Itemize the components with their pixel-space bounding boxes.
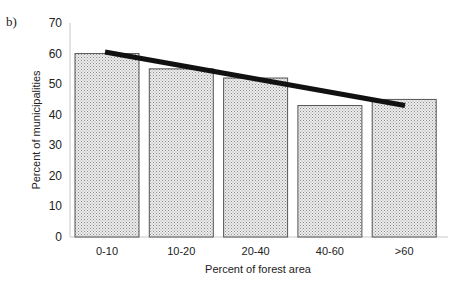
- y-tick-label: 70: [49, 16, 63, 30]
- bar-60: [372, 99, 436, 237]
- bar-20-40: [224, 78, 288, 237]
- y-tick-label: 10: [49, 199, 63, 213]
- x-tick-label: >60: [395, 245, 414, 257]
- x-tick-label: 40-60: [316, 245, 344, 257]
- y-tick-label: 40: [49, 108, 63, 122]
- y-axis-title: Percent of municipalities: [30, 70, 42, 190]
- bar-chart: 010203040506070 0-1010-2020-4040-60>60 P…: [0, 0, 454, 286]
- bar-0-10: [75, 54, 139, 237]
- x-axis-title: Percent of forest area: [205, 263, 312, 275]
- bar-40-60: [298, 106, 362, 237]
- bar-10-20: [149, 69, 213, 237]
- y-axis-ticks: 010203040506070: [49, 16, 63, 244]
- y-tick-label: 60: [49, 47, 63, 61]
- x-axis-ticks: 0-1010-2020-4040-60>60: [96, 245, 414, 257]
- x-tick-label: 20-40: [242, 245, 270, 257]
- x-tick-label: 0-10: [96, 245, 118, 257]
- y-tick-label: 50: [49, 77, 63, 91]
- y-tick-label: 30: [49, 138, 63, 152]
- y-tick-label: 0: [55, 230, 62, 244]
- x-tick-label: 10-20: [167, 245, 195, 257]
- y-tick-label: 20: [49, 169, 63, 183]
